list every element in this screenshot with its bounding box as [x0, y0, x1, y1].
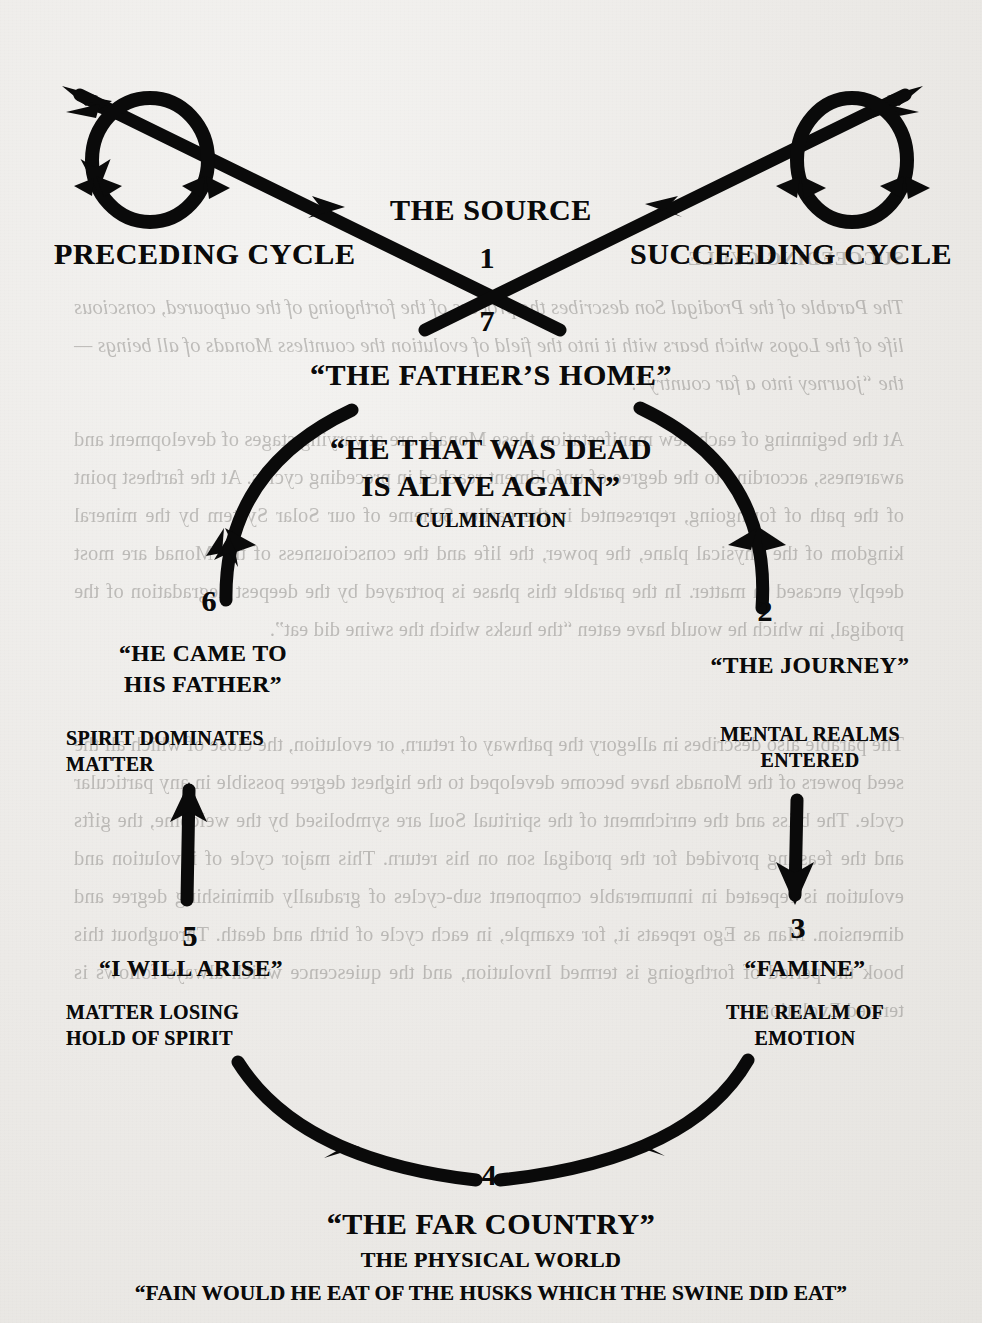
- stage-3-subtitle-line-1: THE REALM OF: [660, 1000, 950, 1024]
- stage-4-quote: “FAIN WOULD HE EAT OF THE HUSKS WHICH TH…: [11, 1281, 971, 1305]
- stage-number-4: 4: [466, 1160, 512, 1190]
- stage-5-title: “I WILL ARISE”: [36, 955, 346, 982]
- preceding-cycle-label: PRECEDING CYCLE: [54, 237, 384, 271]
- stage-2-subtitle-line-2: ENTERED: [650, 748, 970, 772]
- stage-6-title-line-2: HIS FATHER”: [28, 671, 378, 698]
- culmination-caption: CULMINATION: [301, 508, 681, 532]
- stage-6-title-line-1: “HE CAME TO: [28, 640, 378, 667]
- stage-number-5: 5: [167, 921, 213, 951]
- stage-number-2: 2: [742, 596, 788, 626]
- stage-4-title: “THE FAR COUNTRY”: [241, 1207, 741, 1241]
- stage-2-title: “THE JOURNEY”: [650, 652, 970, 679]
- stage-5-subtitle-line-2: HOLD OF SPIRIT: [66, 1026, 356, 1050]
- stage-3-subtitle-line-2: EMOTION: [660, 1026, 950, 1050]
- stage-5-subtitle-line-1: MATTER LOSING: [66, 1000, 356, 1024]
- stage-number-6: 6: [186, 586, 232, 616]
- stage-4-subtitle: THE PHYSICAL WORLD: [241, 1248, 741, 1272]
- culmination-line-2: IS ALIVE AGAIN”: [261, 469, 721, 503]
- stage-number-1: 1: [462, 243, 512, 273]
- culmination-line-1: “HE THAT WAS DEAD: [261, 432, 721, 466]
- stage-3-title: “FAMINE”: [660, 955, 950, 982]
- fathers-home-label: “THE FATHER’S HOME”: [241, 358, 741, 392]
- stage-6-subtitle-line-2: MATTER: [66, 752, 366, 776]
- stage-number-3: 3: [775, 913, 821, 943]
- stage-2-subtitle-line-1: MENTAL REALMS: [650, 722, 970, 746]
- succeeding-cycle-label: SUCCEEDING CYCLE: [630, 237, 970, 271]
- the-source-label: THE SOURCE: [351, 193, 631, 227]
- stage-number-7: 7: [462, 306, 512, 336]
- stage-6-subtitle-line-1: SPIRIT DOMINATES: [66, 726, 366, 750]
